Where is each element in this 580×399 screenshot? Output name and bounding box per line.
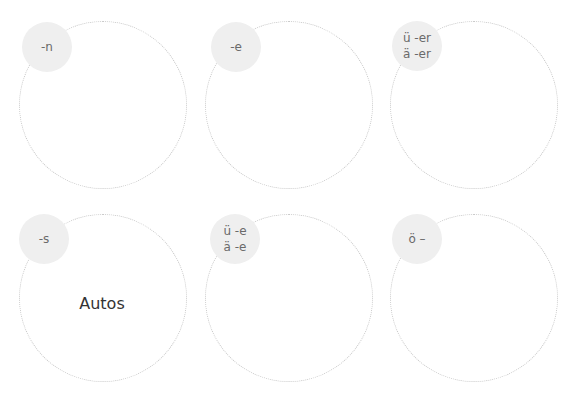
group-label-line: -e (230, 39, 242, 55)
group-label-n: -n (22, 22, 72, 72)
group-label-line: ä -e (224, 239, 247, 255)
group-label-e: -e (211, 22, 261, 72)
group-label-o-umlaut-none: ö – (392, 214, 442, 264)
group-label-umlaut-er: ü -er ä -er (392, 21, 442, 71)
group-label-line: ü -e (223, 223, 246, 239)
group-label-line: -n (41, 39, 53, 55)
group-label-s: -s (19, 214, 69, 264)
group-label-umlaut-e: ü -e ä -e (210, 214, 260, 264)
group-label-line: ä -er (403, 46, 431, 62)
group-label-line: -s (39, 231, 50, 247)
word-card-autos[interactable]: Autos (79, 294, 124, 313)
group-label-line: ü -er (403, 30, 431, 46)
group-label-line: ö – (408, 231, 425, 247)
